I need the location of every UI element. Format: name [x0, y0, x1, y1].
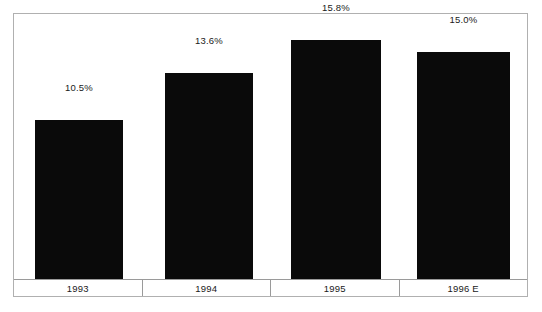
x-axis-label-1993: 1993	[14, 280, 143, 296]
bar-chart-figure: 10.5% 13.6% 15.8% 15.0% 1993 1994 1995 1…	[0, 0, 542, 312]
bar-group-1: 10.5%	[35, 14, 123, 279]
bar-group-2: 13.6%	[165, 14, 253, 279]
plot-area: 10.5% 13.6% 15.8% 15.0%	[14, 14, 527, 279]
bar-1994[interactable]	[165, 73, 253, 279]
x-axis-label-1994: 1994	[143, 280, 272, 296]
bar-group-3: 15.8%	[291, 14, 381, 279]
bar-value-label-3: 15.8%	[291, 2, 381, 13]
bar-value-label-4: 15.0%	[417, 14, 510, 25]
bar-value-label-2: 13.6%	[165, 35, 253, 46]
x-axis-label-band: 1993 1994 1995 1996 E	[14, 279, 527, 296]
bar-1996-e[interactable]	[417, 52, 510, 279]
chart-frame: 10.5% 13.6% 15.8% 15.0% 1993 1994 1995 1…	[13, 13, 528, 297]
x-axis-label-1996-e: 1996 E	[400, 280, 528, 296]
bar-1993[interactable]	[35, 120, 123, 279]
bar-group-4: 15.0%	[417, 14, 510, 279]
bar-1995[interactable]	[291, 40, 381, 279]
x-axis-label-1995: 1995	[271, 280, 400, 296]
bar-value-label-1: 10.5%	[35, 82, 123, 93]
